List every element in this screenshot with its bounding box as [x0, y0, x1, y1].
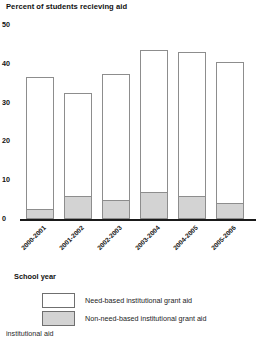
chart-title: Percent of students recieving aid [6, 2, 127, 11]
y-tick-30: 30 [2, 99, 18, 107]
y-tick-10: 10 [2, 176, 18, 184]
x-tick-2000-2001: 2000-2001 [18, 224, 47, 253]
x-tick-2001-2002: 2001-2002 [56, 224, 85, 253]
x-tick-2002-2003: 2002-2003 [94, 224, 123, 253]
footer-text: institutional aid [6, 331, 206, 338]
y-tick-0: 0 [2, 215, 18, 223]
legend-item-0[interactable]: Need-based institutional grant aid [42, 292, 254, 309]
x-axis-title: School year [14, 272, 56, 281]
x-axis-line [20, 219, 256, 221]
chart-legend: Need-based institutional grant aidNon-ne… [42, 292, 254, 328]
bar-2002-2003[interactable] [102, 74, 130, 220]
legend-label: Need-based institutional grant aid [85, 296, 192, 305]
bar-segment-need-based[interactable] [178, 52, 206, 196]
x-tick-2003-2004: 2003-2004 [132, 224, 161, 253]
y-tick-40: 40 [2, 60, 18, 68]
legend-label: Non-need-based institutional grant aid [85, 314, 206, 323]
bar-segment-non-need-based[interactable] [102, 200, 130, 219]
bar-2000-2001[interactable] [26, 77, 54, 219]
bar-2004-2005[interactable] [178, 52, 206, 219]
bar-segment-need-based[interactable] [26, 77, 54, 209]
x-tick-2005-2006: 2005-2006 [208, 224, 237, 253]
bar-2005-2006[interactable] [216, 62, 244, 219]
bar-segment-need-based[interactable] [140, 50, 168, 192]
bar-2001-2002[interactable] [64, 93, 92, 219]
bar-2003-2004[interactable] [140, 50, 168, 219]
legend-swatch-white [42, 293, 75, 308]
bar-segment-non-need-based[interactable] [216, 203, 244, 219]
bar-segment-need-based[interactable] [102, 74, 130, 200]
bar-segment-non-need-based[interactable] [140, 192, 168, 219]
x-tick-2004-2005: 2004-2005 [170, 224, 199, 253]
y-tick-20: 20 [2, 137, 18, 145]
footer-clipped-text: institutional aid [6, 331, 206, 339]
bar-segment-non-need-based[interactable] [64, 196, 92, 219]
bar-segment-need-based[interactable] [216, 62, 244, 204]
chart-container: Percent of students recieving aid 010203… [0, 0, 257, 339]
y-tick-50: 50 [2, 21, 18, 29]
plot-area [22, 20, 254, 219]
bar-segment-non-need-based[interactable] [26, 209, 54, 219]
legend-item-1[interactable]: Non-need-based institutional grant aid [42, 310, 254, 327]
bar-segment-non-need-based[interactable] [178, 196, 206, 219]
legend-swatch-gray [42, 311, 75, 326]
bar-segment-need-based[interactable] [64, 93, 92, 196]
